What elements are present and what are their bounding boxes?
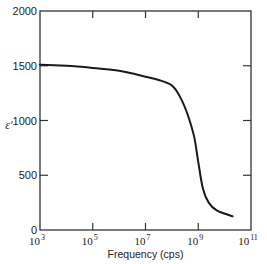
y-tick-label: 2000 — [13, 5, 37, 17]
x-tick-label: 105 — [82, 233, 98, 247]
y-axis-label: ε′ — [5, 118, 13, 132]
chart: 10310510710910110500100015002000 Frequen… — [0, 0, 267, 264]
y-tick-label: 1500 — [13, 60, 37, 72]
y-tick-label: 1000 — [13, 115, 37, 127]
tick-labels: 10310510710910110500100015002000 — [13, 5, 258, 247]
y-tick-label: 0 — [31, 224, 37, 236]
x-tick-label: 107 — [135, 233, 151, 247]
axis-ticks — [40, 11, 251, 230]
y-tick-label: 500 — [19, 169, 37, 181]
data-curve — [40, 65, 233, 217]
x-tick-label: 109 — [187, 233, 203, 247]
x-tick-label: 1011 — [238, 233, 258, 247]
x-axis-label: Frequency (cps) — [108, 248, 184, 260]
plot-frame — [40, 11, 251, 230]
